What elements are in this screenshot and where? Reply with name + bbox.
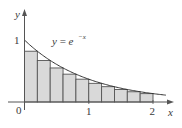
riemann-rectangle: [63, 74, 76, 102]
svg-text:y = e: y = e: [51, 35, 74, 47]
origin-label: 0: [16, 104, 22, 116]
x-axis-label: x: [167, 106, 173, 118]
riemann-rectangle: [76, 79, 89, 102]
riemann-rectangle: [102, 87, 115, 102]
x-tick-label-1: 1: [86, 105, 92, 117]
riemann-rectangle: [127, 92, 140, 102]
y-tick-label-1: 1: [14, 34, 20, 46]
riemann-rectangle: [37, 60, 50, 102]
svg-text:−x: −x: [78, 33, 87, 41]
x-tick-label-2: 2: [150, 105, 156, 117]
riemann-rectangle: [50, 68, 63, 102]
riemann-rectangle: [140, 94, 153, 102]
y-axis-arrow-icon: [22, 9, 27, 16]
x-axis-arrow-icon: [167, 100, 174, 105]
riemann-rectangles: [25, 51, 154, 102]
riemann-sum-diagram: y x 0 1 2 1 y = e −x: [0, 0, 182, 128]
function-label: y = e −x: [51, 33, 87, 47]
y-axis-label: y: [14, 8, 20, 20]
riemann-rectangle: [25, 51, 38, 102]
riemann-rectangle: [89, 83, 102, 102]
riemann-rectangle: [114, 89, 127, 102]
